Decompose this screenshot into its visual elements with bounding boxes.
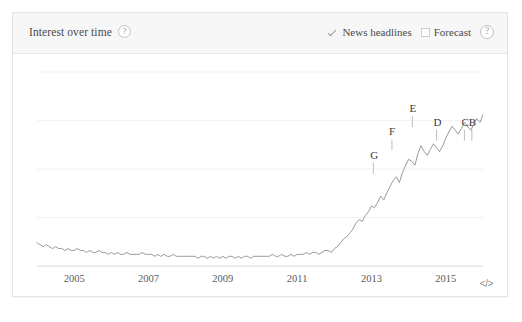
chart-gridlines (37, 72, 483, 218)
page-title: Interest over time (29, 26, 112, 38)
annotation-label-e[interactable]: E (409, 103, 416, 114)
title-help-icon[interactable]: ? (118, 25, 131, 38)
x-tick-label: 2015 (435, 273, 456, 284)
forecast-label: Forecast (434, 26, 471, 38)
annotation-label-f[interactable]: F (389, 126, 395, 137)
panel-header-controls: News headlines Forecast ? (329, 25, 494, 39)
header-help-icon[interactable]: ? (480, 25, 494, 39)
x-tick-label: 2009 (212, 273, 233, 284)
embed-code-icon[interactable]: </> (480, 278, 493, 289)
chart-line-series (37, 115, 483, 259)
panel-header: Interest over time ? News headlines Fore… (13, 13, 507, 54)
annotation-label-c[interactable]: C (461, 117, 468, 128)
interest-line-chart (13, 54, 507, 297)
x-tick-label: 2007 (138, 273, 159, 284)
annotation-label-g[interactable]: G (370, 150, 378, 161)
annotation-label-d[interactable]: D (434, 117, 442, 128)
x-tick-label: 2011 (287, 273, 308, 284)
news-headlines-toggle[interactable]: News headlines (329, 26, 411, 38)
x-tick-label: 2005 (64, 273, 85, 284)
x-tick-label: 2013 (361, 273, 382, 284)
panel-title-group: Interest over time ? (29, 25, 131, 38)
check-icon (329, 28, 338, 37)
empty-checkbox-icon (421, 28, 430, 37)
chart-plot-area[interactable]: GFEDCB 200520072009201120132015 (13, 54, 507, 297)
annotation-label-b[interactable]: B (469, 117, 476, 128)
forecast-toggle[interactable]: Forecast (421, 26, 471, 38)
news-headlines-label: News headlines (342, 26, 411, 38)
interest-over-time-panel: Interest over time ? News headlines Fore… (12, 12, 508, 297)
